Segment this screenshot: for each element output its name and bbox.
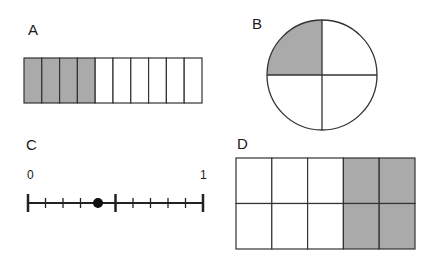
shaded-cell	[343, 158, 379, 204]
unshaded-cell	[95, 58, 113, 103]
panel-d: D	[236, 135, 415, 249]
unshaded-cell	[272, 204, 308, 250]
unshaded-cell	[149, 58, 167, 103]
unshaded-cell	[308, 204, 344, 250]
unshaded-cell	[131, 58, 149, 103]
point-marker	[93, 198, 103, 208]
shaded-cell	[42, 58, 60, 103]
unshaded-cell	[308, 158, 344, 204]
number-line-end-label: 1	[200, 168, 207, 182]
unshaded-cell	[184, 58, 202, 103]
fraction-strip	[24, 58, 202, 103]
shaded-cell	[77, 58, 95, 103]
unshaded-cell	[113, 58, 131, 103]
fraction-diagram: A B C 0 1 D	[0, 0, 436, 258]
panel-a: A	[24, 21, 202, 103]
panel-c: C 0 1	[26, 136, 207, 212]
unshaded-cell	[236, 204, 272, 250]
shaded-cell	[24, 58, 42, 103]
shaded-cell	[343, 204, 379, 250]
shaded-cell	[379, 204, 415, 250]
fraction-grid	[236, 158, 415, 249]
panel-d-label: D	[237, 135, 248, 152]
unshaded-cell	[236, 158, 272, 204]
fraction-circle	[267, 20, 377, 130]
unshaded-cell	[272, 158, 308, 204]
number-line	[28, 194, 203, 212]
unshaded-cell	[166, 58, 184, 103]
panel-b-label: B	[252, 15, 262, 32]
panel-c-label: C	[26, 136, 37, 153]
shaded-cell	[60, 58, 78, 103]
shaded-quarter	[267, 20, 322, 75]
shaded-cell	[379, 158, 415, 204]
panel-a-label: A	[28, 21, 38, 38]
number-line-start-label: 0	[27, 168, 34, 182]
panel-b: B	[252, 15, 377, 130]
